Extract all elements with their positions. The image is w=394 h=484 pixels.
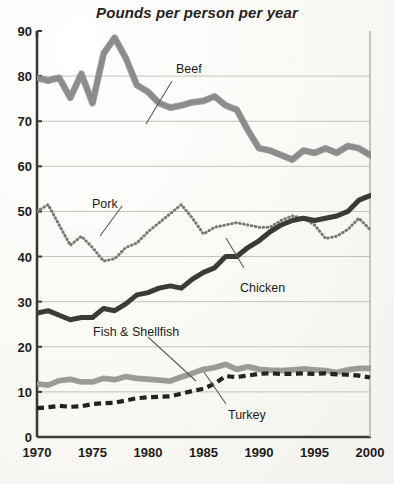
y-tick-40: 40 xyxy=(18,250,32,265)
series-line-turkey xyxy=(37,373,370,408)
y-tick-50: 50 xyxy=(18,204,32,219)
x-tick-2000: 2000 xyxy=(356,445,385,460)
x-tick-1995: 1995 xyxy=(300,445,329,460)
series-label-pork: Pork xyxy=(92,197,118,211)
series-label-fish: Fish & Shellfish xyxy=(93,325,179,339)
series-line-beef xyxy=(37,38,370,160)
y-tick-30: 30 xyxy=(18,295,32,310)
y-tick-20: 20 xyxy=(18,340,32,355)
leader-line-turkey xyxy=(204,372,226,404)
series-line-chicken xyxy=(37,196,370,320)
y-tick-70: 70 xyxy=(18,114,32,129)
leader-line-fish xyxy=(148,337,196,381)
y-tick-60: 60 xyxy=(18,159,32,174)
chart-canvas: Pounds per person per year 0102030405060… xyxy=(0,0,394,484)
y-tick-0: 0 xyxy=(25,430,32,445)
y-tick-10: 10 xyxy=(18,385,32,400)
y-tick-80: 80 xyxy=(18,69,32,84)
data-series-group xyxy=(37,38,370,408)
x-tick-1990: 1990 xyxy=(245,445,274,460)
y-tick-90: 90 xyxy=(18,24,32,39)
chart-plot-area: 0102030405060708090 19701975198019851990… xyxy=(0,0,394,484)
x-tick-1985: 1985 xyxy=(189,445,218,460)
series-label-beef: Beef xyxy=(176,62,202,76)
leader-line-beef xyxy=(146,81,172,124)
x-axis-tick-labels: 1970197519801985199019952000 xyxy=(23,445,385,460)
series-label-turkey: Turkey xyxy=(228,408,266,422)
x-tick-1970: 1970 xyxy=(23,445,52,460)
series-line-pork xyxy=(37,205,370,261)
x-tick-1975: 1975 xyxy=(78,445,107,460)
annotation-leader-lines xyxy=(100,81,244,404)
series-label-chicken: Chicken xyxy=(240,281,285,295)
x-tick-1980: 1980 xyxy=(134,445,163,460)
